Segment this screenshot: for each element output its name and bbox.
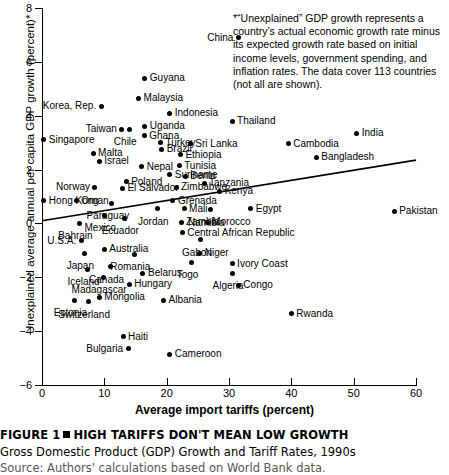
data-point <box>183 174 188 179</box>
y-tick <box>35 116 42 117</box>
x-tick <box>354 378 355 385</box>
data-point-label: Kenya <box>225 186 253 196</box>
x-tick-label: 60 <box>401 388 431 399</box>
data-point-label: Cambodia <box>293 139 339 149</box>
data-point-label: U.S.A. <box>47 236 76 246</box>
y-tick-label: 8 <box>8 3 32 14</box>
y-tick <box>35 331 42 332</box>
data-point <box>174 185 179 190</box>
x-tick-label: 10 <box>89 388 119 399</box>
x-tick <box>42 378 43 385</box>
data-point <box>177 163 182 168</box>
data-point <box>155 206 160 211</box>
data-point-label: Australia <box>109 244 148 254</box>
y-tick <box>35 8 42 9</box>
y-axis-title: Unexplained average annual per capita GD… <box>24 34 36 334</box>
data-point-label: Belarus <box>148 268 182 278</box>
data-point <box>101 275 106 280</box>
data-point-label: Ethiopia <box>185 150 221 160</box>
data-point-label: Bangladesh <box>321 152 374 162</box>
data-point-label: Ecuador <box>102 226 139 236</box>
data-point <box>354 131 359 136</box>
x-tick <box>104 378 105 385</box>
data-point-label: Egypt <box>256 204 282 214</box>
data-point <box>161 298 166 303</box>
data-point-label: Haiti <box>128 332 148 342</box>
figure-caption: FIGURE 1HIGH TARIFFS DON'T MEAN LOW GROW… <box>0 428 449 475</box>
data-point <box>142 76 147 81</box>
data-point <box>167 111 172 116</box>
data-point <box>230 261 235 266</box>
data-point <box>99 104 104 109</box>
data-point-label: Pakistan <box>399 206 437 216</box>
data-point-label: Thailand <box>237 116 275 126</box>
x-tick <box>229 378 230 385</box>
y-tick <box>35 277 42 278</box>
x-tick <box>416 378 417 385</box>
square-bullet-icon <box>63 431 70 438</box>
data-point-label: Hungary <box>134 279 172 289</box>
data-point <box>126 346 131 351</box>
data-point-label: Nepal <box>147 162 173 172</box>
data-point-label: Malaysia <box>144 93 183 103</box>
data-point-label: Jordan <box>138 217 169 227</box>
data-point-label: Guyana <box>150 73 185 83</box>
x-tick-label: 20 <box>152 388 182 399</box>
data-point-label: Taiwan <box>86 124 117 134</box>
data-point <box>77 221 82 226</box>
data-point <box>127 282 132 287</box>
data-point <box>392 209 397 214</box>
x-tick-label: 0 <box>27 388 57 399</box>
data-point-label: Sri Lanka <box>195 139 237 149</box>
data-point-label: Singapore <box>49 135 95 145</box>
y-tick <box>35 223 42 224</box>
data-point-label: Mali <box>189 204 207 214</box>
data-point-label: Israel <box>104 156 128 166</box>
caption-figure-label: FIGURE 1 <box>0 428 60 442</box>
data-point-label: Indonesia <box>175 108 218 118</box>
data-point <box>236 283 241 288</box>
data-point-label: Switzerland <box>58 310 110 320</box>
x-tick-label: 30 <box>214 388 244 399</box>
data-point <box>217 189 222 194</box>
data-point <box>102 213 107 218</box>
data-point <box>197 251 202 256</box>
caption-subtitle: Gross Domestic Product (GDP) Growth and … <box>0 445 449 459</box>
data-point-label: Mongolia <box>104 292 145 302</box>
data-point-label: Chile <box>114 137 137 147</box>
data-point <box>132 252 137 257</box>
data-point <box>120 186 125 191</box>
x-tick <box>291 378 292 385</box>
data-point-label: Norway <box>56 182 90 192</box>
data-point <box>205 220 210 225</box>
data-point-label: Cameroon <box>175 349 222 359</box>
data-point <box>136 96 141 101</box>
caption-source: Source: Authors' calculations based on W… <box>0 461 449 475</box>
data-point <box>179 220 184 225</box>
data-point <box>314 155 319 160</box>
x-tick-label: 40 <box>276 388 306 399</box>
x-tick-label: 50 <box>339 388 369 399</box>
data-point-label: El Salvador <box>127 183 178 193</box>
data-point <box>85 267 90 272</box>
data-point-label: Central African Republic <box>187 228 294 238</box>
footnote-annotation: *“Unexplained” GDP growth represents a c… <box>233 12 440 91</box>
data-point <box>97 295 102 300</box>
data-point <box>82 251 87 256</box>
y-axis-line <box>42 8 43 386</box>
data-point <box>230 119 235 124</box>
x-tick <box>167 378 168 385</box>
data-point <box>102 247 107 252</box>
data-point-label: Niger <box>205 248 229 258</box>
data-point <box>97 159 102 164</box>
y-tick <box>35 170 42 171</box>
data-point-label: Albania <box>169 295 202 305</box>
data-point <box>127 127 132 132</box>
data-point-label: Morocco <box>212 217 250 227</box>
data-point-label: Congo <box>243 280 272 290</box>
data-point <box>74 198 79 203</box>
caption-title-line: FIGURE 1HIGH TARIFFS DON'T MEAN LOW GROW… <box>0 428 449 442</box>
data-point-label: Oman <box>81 196 108 206</box>
data-point <box>91 151 96 156</box>
